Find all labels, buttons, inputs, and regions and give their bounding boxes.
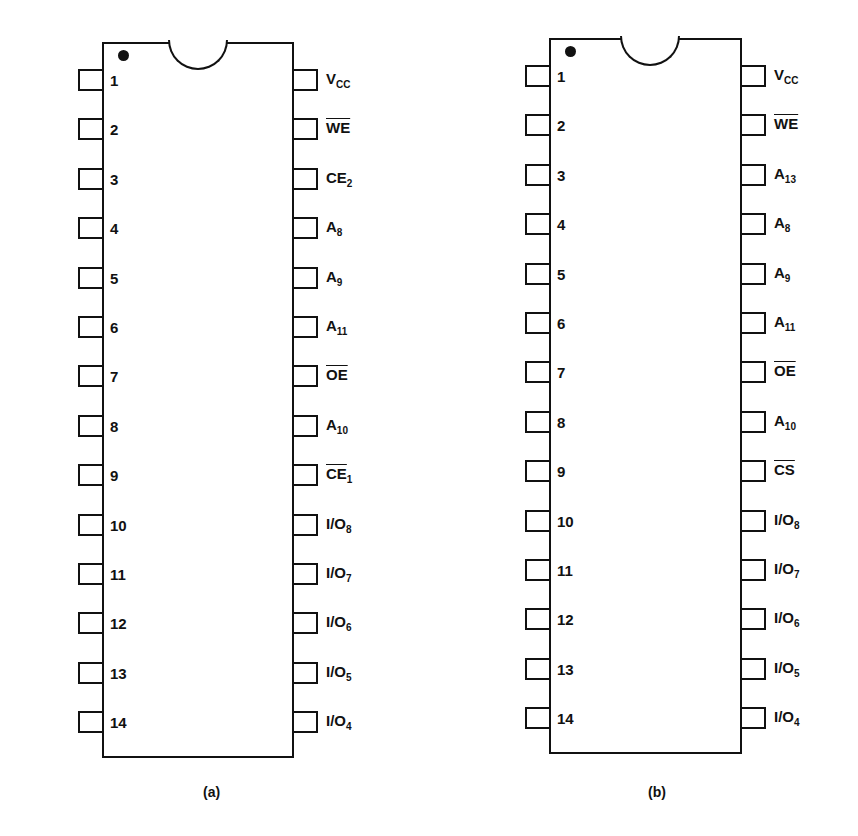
pin-10-lead [78,514,102,536]
pin-number: 12 [110,615,127,633]
pin-label: A10 [326,416,348,440]
pin-6-lead [78,316,102,338]
figure-caption-a: (a) [203,784,220,800]
pin-number: 11 [557,562,573,580]
pin-number: 5 [557,266,565,284]
pin-26-lead [742,164,766,186]
pin-number: 10 [110,517,127,535]
pin-11-lead [525,559,549,581]
pin-21-lead [294,415,318,437]
pin-number: 14 [110,714,127,732]
pin-label: OE [774,362,796,380]
pin-number: 13 [110,665,127,683]
pin-label: WE [326,119,350,137]
pin-2-lead [525,114,549,136]
pin-label: A11 [326,317,347,341]
pin-18-lead [294,563,318,585]
pin-label: I/O7 [774,560,800,584]
pin-label: OE [326,366,348,384]
pin-number: 1 [110,72,118,90]
pin-18-lead [742,559,766,581]
pin-number: 7 [557,364,565,382]
pin-28-lead [294,69,318,91]
figure-caption-b: (b) [648,784,666,800]
pin1-indicator-dot [565,46,576,57]
pin-number: 2 [557,117,565,135]
pin-12-lead [525,608,549,630]
pin-20-lead [742,460,766,482]
pin-number: 4 [557,216,565,234]
pin-label: I/O4 [326,712,352,736]
pin-label: A9 [326,268,342,292]
pin-22-lead [742,361,766,383]
pin-label: CE2 [326,169,352,193]
pin-24-lead [294,267,318,289]
pin-25-lead [742,213,766,235]
pin-4-lead [525,213,549,235]
pin-number: 6 [557,315,565,333]
pin-number: 10 [557,513,574,531]
pin-6-lead [525,312,549,334]
pin-number: 11 [110,566,126,584]
pin-number: 2 [110,121,118,139]
pin-5-lead [525,263,549,285]
pin-28-lead [742,65,766,87]
pin-number: 9 [557,463,565,481]
pin-12-lead [78,612,102,634]
pin-15-lead [742,707,766,729]
pin-label: I/O8 [326,515,352,539]
pin-19-lead [294,514,318,536]
pin-label: I/O5 [326,663,352,687]
pin-label: I/O7 [326,564,352,588]
pin-7-lead [78,365,102,387]
pin-17-lead [742,608,766,630]
pin-number: 12 [557,611,574,629]
pin-16-lead [742,658,766,680]
chip-body [102,42,294,758]
pin-9-lead [78,464,102,486]
pin-26-lead [294,168,318,190]
pin-27-lead [742,114,766,136]
pin-label: A11 [774,313,795,337]
pin-label: I/O6 [774,609,800,633]
pin-4-lead [78,217,102,239]
pin-2-lead [78,118,102,140]
pin-3-lead [78,168,102,190]
pin-label: CE1 [326,465,352,489]
pin-number: 1 [557,68,565,86]
pin-label: CS [774,461,795,479]
pin-label: A10 [774,412,796,436]
pin-8-lead [78,415,102,437]
pin-11-lead [78,563,102,585]
pin-10-lead [525,510,549,532]
pin-20-lead [294,464,318,486]
pin-number: 13 [557,661,574,679]
pin-13-lead [525,658,549,680]
pin-13-lead [78,662,102,684]
pin-number: 8 [557,414,565,432]
pin-5-lead [78,267,102,289]
pin-number: 6 [110,319,118,337]
pin-1-lead [78,69,102,91]
pin-14-lead [78,711,102,733]
pin-23-lead [742,312,766,334]
pin-label: A13 [774,165,796,189]
pin-14-lead [525,707,549,729]
pin-3-lead [525,164,549,186]
pin-21-lead [742,411,766,433]
pin-number: 7 [110,368,118,386]
pin-number: 8 [110,418,118,436]
pin-8-lead [525,411,549,433]
pin-label: I/O5 [774,659,800,683]
pin-label: WE [774,115,798,133]
pin-number: 5 [110,270,118,288]
chip-body [549,38,742,754]
pin-16-lead [294,662,318,684]
pin-number: 9 [110,467,118,485]
pin-label: A8 [774,214,790,238]
pin-label: A8 [326,218,342,242]
pin-27-lead [294,118,318,140]
pin-label: I/O4 [774,708,800,732]
pin-label: I/O8 [774,511,800,535]
pin-label: VCC [774,66,798,90]
